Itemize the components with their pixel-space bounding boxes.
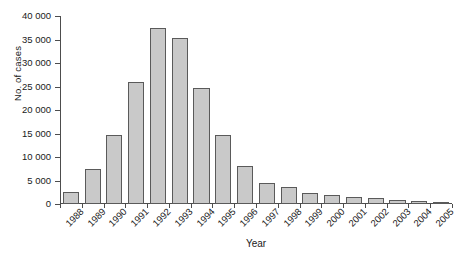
bar bbox=[389, 200, 405, 204]
bar bbox=[85, 169, 101, 204]
bar bbox=[150, 28, 166, 204]
bar-chart: No. of cases 05 00010 00015 00020 00025 … bbox=[0, 0, 464, 256]
y-axis-tick-label: 25 000 bbox=[22, 81, 51, 92]
bar bbox=[215, 135, 231, 204]
bar bbox=[63, 192, 79, 204]
y-axis-tick-label: 35 000 bbox=[22, 34, 51, 45]
bar bbox=[368, 198, 384, 204]
plot-area: 05 00010 00015 00020 00025 00030 00035 0… bbox=[60, 16, 452, 204]
bar bbox=[259, 183, 275, 204]
bar bbox=[346, 197, 362, 204]
x-axis-title: Year bbox=[60, 238, 452, 249]
bar bbox=[281, 187, 297, 204]
y-axis-tick-label: 15 000 bbox=[22, 128, 51, 139]
y-axis-tick-label: 20 000 bbox=[22, 104, 51, 115]
bar bbox=[302, 193, 318, 204]
y-axis-tick-label: 40 000 bbox=[22, 10, 51, 21]
bar bbox=[324, 195, 340, 204]
bar bbox=[106, 135, 122, 204]
y-axis-tick-label: 10 000 bbox=[22, 151, 51, 162]
bar bbox=[433, 202, 449, 204]
bar bbox=[193, 88, 209, 204]
bar bbox=[128, 82, 144, 204]
bar-series bbox=[60, 16, 452, 204]
y-axis-tick-label: 5 000 bbox=[27, 175, 51, 186]
y-axis-title: No. of cases bbox=[12, 19, 23, 129]
x-axis-tick-labels: 1988198919901991199219931994199519961997… bbox=[60, 206, 452, 240]
bar bbox=[172, 38, 188, 204]
x-axis-tick bbox=[452, 204, 453, 208]
y-axis-tick-label: 30 000 bbox=[22, 57, 51, 68]
y-axis-tick-label: 0 bbox=[46, 198, 51, 209]
bar bbox=[411, 201, 427, 204]
bar bbox=[237, 166, 253, 204]
